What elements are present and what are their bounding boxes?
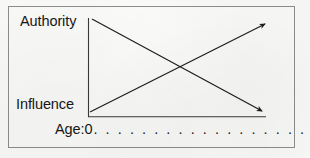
figure-canvas: Authority Influence Age:0 . . . . . . . …	[0, 0, 310, 158]
influence-label: Influence	[16, 97, 74, 112]
x-axis-caption: Age:0 . . . . . . . . . . . . . . . . . …	[55, 122, 310, 137]
axis-dot-leader: . . . . . . . . . . . . . . . . . . . . …	[93, 122, 310, 137]
authority-label: Authority	[20, 14, 76, 29]
age-start-label: Age:0	[55, 122, 92, 137]
authority-trend-line	[92, 19, 262, 111]
